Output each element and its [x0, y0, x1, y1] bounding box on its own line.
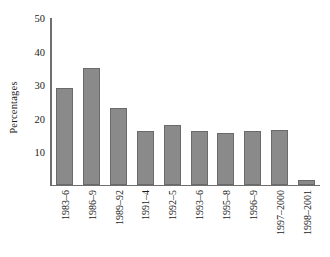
x-tick: 1983–6 [52, 190, 79, 256]
x-tick: 1997–2000 [266, 190, 293, 256]
bar-slot [78, 19, 105, 185]
x-tick: 1989–92 [105, 190, 132, 256]
y-tick-label: 20 [35, 113, 46, 124]
y-axis-title-text: Percentages [8, 81, 19, 133]
x-tick: 1998–2001 [293, 190, 320, 256]
bar[interactable] [217, 133, 234, 184]
bar[interactable] [137, 131, 154, 184]
bar-slot [105, 19, 132, 185]
x-axis-line [50, 185, 320, 187]
x-tick: 1993–6 [186, 190, 213, 256]
bar[interactable] [271, 130, 288, 184]
y-tick-label: 10 [35, 147, 46, 158]
bar-slot [132, 19, 159, 185]
x-tick: 1995–8 [213, 190, 240, 256]
x-tick-label: 1989–92 [113, 190, 124, 225]
bar-slot [266, 19, 293, 185]
bar-slot [239, 19, 266, 185]
bar[interactable] [110, 108, 127, 184]
bar-slot [213, 19, 240, 185]
x-axis-ticks: 1983–6 1986–9 1989–92 1991–4 1992–5 1993… [52, 190, 321, 256]
x-tick-label: 1992–5 [167, 190, 178, 220]
bar[interactable] [191, 131, 208, 184]
y-axis-title: Percentages [4, 62, 22, 152]
bar[interactable] [83, 68, 100, 184]
x-tick-label: 1997–2000 [274, 190, 285, 235]
x-tick: 1996–9 [239, 190, 266, 256]
bar[interactable] [298, 180, 315, 185]
y-tick-label: 50 [35, 13, 46, 24]
y-tick-label: 30 [35, 80, 46, 91]
x-tick: 1992–5 [159, 190, 186, 256]
x-tick-label: 1996–9 [247, 190, 258, 220]
x-tick-label: 1983–6 [59, 190, 70, 220]
bar-slot [293, 19, 320, 185]
bar-slot [186, 19, 213, 185]
bar-chart: Percentages 50 40 30 20 10 1983–6 1986–9… [0, 0, 330, 257]
bar-series [52, 19, 321, 185]
x-tick: 1986–9 [78, 190, 105, 256]
bar[interactable] [164, 125, 181, 185]
bar-slot [159, 19, 186, 185]
x-tick: 1991–4 [132, 190, 159, 256]
x-tick-label: 1998–2001 [301, 190, 312, 235]
x-tick-label: 1993–6 [194, 190, 205, 220]
x-tick-label: 1995–8 [220, 190, 231, 220]
bar[interactable] [244, 131, 261, 185]
y-tick-label: 40 [35, 46, 46, 57]
x-tick-label: 1991–4 [140, 190, 151, 220]
x-tick-label: 1986–9 [86, 190, 97, 220]
bar[interactable] [56, 88, 73, 184]
bar-slot [52, 19, 79, 185]
plot-area: 50 40 30 20 10 [50, 18, 320, 186]
